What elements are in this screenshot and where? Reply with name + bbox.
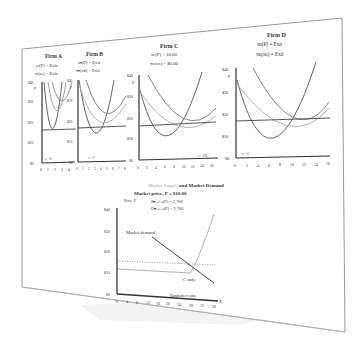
svg-text:4: 4 xyxy=(155,166,157,170)
svg-text:28: 28 xyxy=(189,304,193,308)
svg-text:4: 4 xyxy=(126,300,128,304)
firm-d-supply: sᴅ(P) = Exit xyxy=(257,41,283,48)
svg-text:8: 8 xyxy=(124,167,126,171)
firm-a-profit: πₐ(sₐ) = Exit xyxy=(35,71,58,76)
svg-text:$0: $0 xyxy=(30,162,34,166)
svg-text:12: 12 xyxy=(302,163,306,167)
svg-text:6: 6 xyxy=(268,164,270,168)
svg-text:$40: $40 xyxy=(222,67,228,72)
svg-text:2: 2 xyxy=(54,168,56,172)
firm-c-profit: πᴄ(sᴄ) = $0.00 xyxy=(150,61,179,66)
svg-text:$30: $30 xyxy=(104,230,110,234)
svg-text:$10: $10 xyxy=(127,137,133,141)
svg-text:3: 3 xyxy=(61,168,63,172)
svg-text:4: 4 xyxy=(257,164,259,168)
svg-text:2: 2 xyxy=(146,166,148,170)
svg-text:$30: $30 xyxy=(127,95,133,99)
firm-d-profit: πᴅ(sᴅ) = Exit xyxy=(256,51,284,58)
svg-text:$0: $0 xyxy=(225,156,229,161)
svg-text:0: 0 xyxy=(116,300,118,304)
svg-text:5: 5 xyxy=(106,167,108,171)
svg-text:s = 276: s = 276 xyxy=(198,154,208,158)
firm-c-title: Firm C xyxy=(160,43,178,49)
svg-text:$30: $30 xyxy=(222,90,228,95)
svg-text:12: 12 xyxy=(146,301,150,305)
firm-b-supply: sₙ(P) = Exit xyxy=(78,60,101,65)
firm-c-supply: sᴄ(P) = 10.00 xyxy=(151,52,178,57)
svg-text:14: 14 xyxy=(200,164,204,168)
svg-text:16: 16 xyxy=(326,162,330,166)
svg-text:$0: $0 xyxy=(106,293,110,297)
svg-text:$20: $20 xyxy=(104,250,110,254)
svg-text:4: 4 xyxy=(100,167,102,171)
supply-c-only-label: C only xyxy=(183,277,196,282)
svg-text:32: 32 xyxy=(200,304,204,308)
svg-text:P: P xyxy=(70,86,72,90)
svg-text:16: 16 xyxy=(156,302,160,306)
svg-text:P: P xyxy=(34,87,36,91)
svg-text:$10: $10 xyxy=(104,271,110,275)
svg-text:8: 8 xyxy=(173,165,175,169)
market-demand-label: Market demand xyxy=(126,230,156,235)
svg-text:$20: $20 xyxy=(222,112,228,117)
firm-b-profit: πₙ(sₙ) = Exit xyxy=(76,68,100,73)
svg-text:$40: $40 xyxy=(104,208,110,212)
svg-text:s = 0: s = 0 xyxy=(45,157,52,161)
svg-text:4: 4 xyxy=(68,168,70,172)
svg-text:$10: $10 xyxy=(28,141,34,145)
svg-text:0: 0 xyxy=(40,168,42,172)
svg-text:14: 14 xyxy=(314,163,318,167)
svg-text:24: 24 xyxy=(177,303,181,307)
svg-text:2: 2 xyxy=(88,167,90,171)
firm-a-supply: sₐ(P) = Exit xyxy=(36,63,58,68)
svg-text:2: 2 xyxy=(246,164,248,168)
svg-text:0: 0 xyxy=(234,164,236,168)
svg-text:Hundreds of units: Hundreds of units xyxy=(170,294,196,298)
svg-text:$30: $30 xyxy=(28,100,34,104)
svg-text:16: 16 xyxy=(210,164,214,168)
firm-d-title: Firm D xyxy=(267,32,286,38)
svg-text:$0: $0 xyxy=(69,161,73,165)
svg-text:$40: $40 xyxy=(127,74,133,78)
chart-sheet: Firm A sₐ(P) = Exit πₐ(sₐ) = Exit $40 P … xyxy=(0,0,364,349)
market-title: Market Supply and Market Demand xyxy=(148,183,224,188)
market-price: Market price, P = $16.00 xyxy=(134,191,187,196)
svg-text:$20: $20 xyxy=(28,121,34,125)
firm-a-title: Firm A xyxy=(45,53,62,59)
svg-text:P: P xyxy=(132,81,134,85)
svg-text:12: 12 xyxy=(191,165,195,169)
svg-text:s = 0: s = 0 xyxy=(242,152,249,156)
svg-text:$40: $40 xyxy=(28,81,34,85)
svg-text:$10: $10 xyxy=(222,134,228,139)
svg-text:s = 0: s = 0 xyxy=(88,156,95,160)
svg-text:20: 20 xyxy=(166,302,170,306)
svg-text:6: 6 xyxy=(164,165,166,169)
svg-text:0: 0 xyxy=(76,167,78,171)
svg-text:$40: $40 xyxy=(67,79,73,83)
svg-text:$10: $10 xyxy=(67,140,73,144)
stage: Firm A sₐ(P) = Exit πₐ(sₐ) = Exit $40 P … xyxy=(0,0,364,349)
svg-text:6: 6 xyxy=(112,167,114,171)
firm-b-title: Firm B xyxy=(86,51,103,57)
svg-text:1: 1 xyxy=(82,167,84,171)
svg-text:X: X xyxy=(219,299,222,304)
svg-text:0: 0 xyxy=(137,166,139,170)
svg-text:10: 10 xyxy=(290,163,294,167)
svg-text:$20: $20 xyxy=(67,120,73,124)
svg-text:$0: $0 xyxy=(129,159,133,163)
svg-text:1: 1 xyxy=(47,168,49,172)
svg-text:$20: $20 xyxy=(127,117,133,121)
svg-text:7: 7 xyxy=(118,167,120,171)
svg-text:$30: $30 xyxy=(67,99,73,103)
svg-text:10: 10 xyxy=(182,165,186,169)
svg-text:8: 8 xyxy=(279,163,281,167)
svg-text:3: 3 xyxy=(94,167,96,171)
svg-text:36: 36 xyxy=(212,305,216,309)
svg-text:8: 8 xyxy=(136,301,138,305)
